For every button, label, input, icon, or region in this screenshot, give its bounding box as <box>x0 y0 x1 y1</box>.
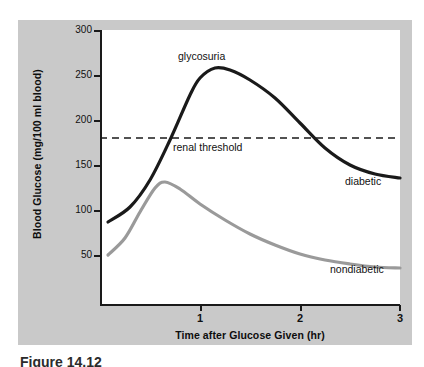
series-line-nondiabetic <box>108 182 400 268</box>
annotation-renal-threshold: renal threshold <box>173 142 242 153</box>
series-label-diabetic: diabetic <box>345 176 381 187</box>
series-label-nondiabetic: nondiabetic <box>330 264 384 275</box>
annotation-glycosuria: glycosuria <box>178 51 225 62</box>
series-line-diabetic <box>108 67 400 222</box>
figure-root: 300 250 200 150 100 50 1 2 3 Time after … <box>0 0 424 367</box>
figure-caption: Figure 14.12 <box>20 355 400 367</box>
